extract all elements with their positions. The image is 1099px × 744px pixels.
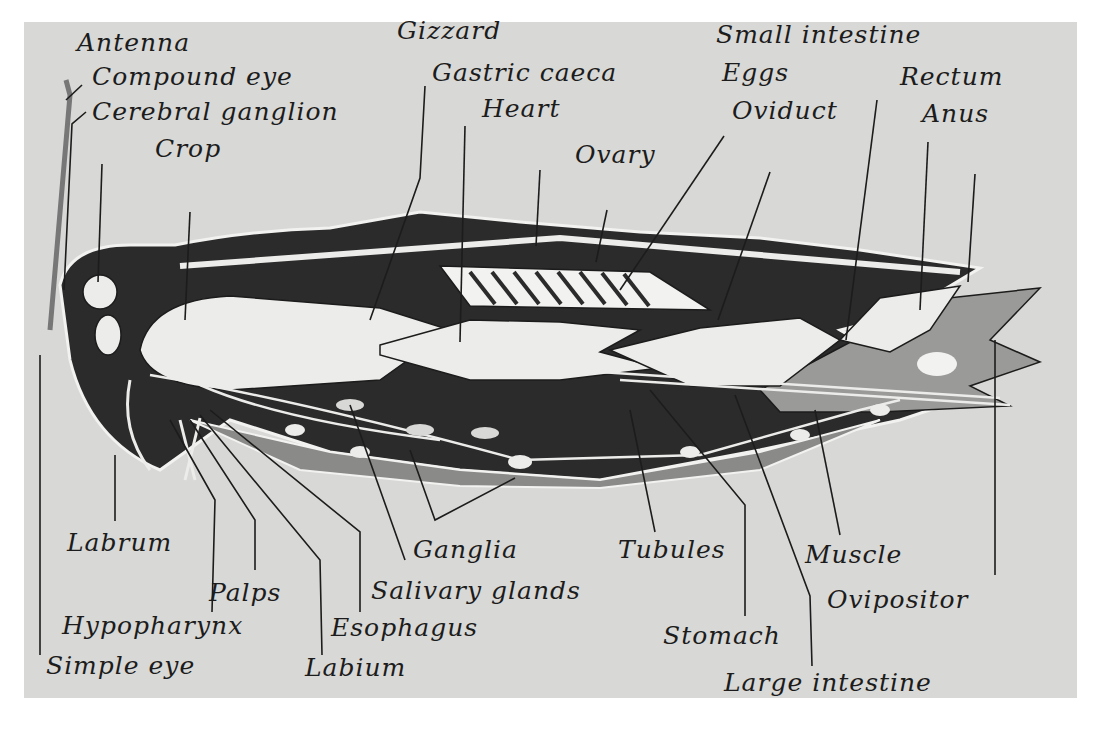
label-oviduct: Oviduct <box>732 98 838 123</box>
label-cerebral-ganglion: Cerebral ganglion <box>92 99 339 124</box>
label-labium: Labium <box>305 655 406 680</box>
label-large-intestine: Large intestine <box>724 670 932 695</box>
label-hypopharynx: Hypopharynx <box>62 613 243 638</box>
label-crop: Crop <box>155 136 221 161</box>
label-stomach: Stomach <box>663 623 781 648</box>
label-ovipositor: Ovipositor <box>827 587 969 612</box>
label-antenna: Antenna <box>77 30 190 55</box>
label-compound-eye: Compound eye <box>92 64 293 89</box>
label-gizzard: Gizzard <box>397 18 501 43</box>
label-eggs: Eggs <box>722 60 789 85</box>
label-palps: Palps <box>209 580 281 605</box>
label-muscle: Muscle <box>805 542 902 567</box>
label-esophagus: Esophagus <box>331 615 478 640</box>
label-ganglia: Ganglia <box>413 537 518 562</box>
label-heart: Heart <box>482 96 561 121</box>
label-labrum: Labrum <box>67 530 172 555</box>
label-salivary-glands: Salivary glands <box>371 578 581 603</box>
label-simple-eye: Simple eye <box>46 653 195 678</box>
label-gastric-caeca: Gastric caeca <box>432 60 617 85</box>
label-anus: Anus <box>922 101 989 126</box>
label-rectum: Rectum <box>900 64 1003 89</box>
label-small-intestine: Small intestine <box>716 22 921 47</box>
label-ovary: Ovary <box>575 142 656 167</box>
label-tubules: Tubules <box>618 537 726 562</box>
